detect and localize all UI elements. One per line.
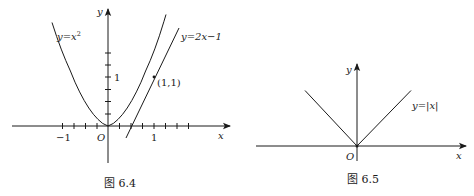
- figure-6-5: y x O y=|x| 图 6.5: [256, 64, 466, 186]
- abs-label: y=|x|: [411, 100, 438, 112]
- origin-point: [356, 145, 359, 148]
- x-tick-label-neg-one: −1: [56, 132, 71, 143]
- x-axis-label: x: [456, 150, 462, 161]
- y-axis-label: y: [345, 64, 352, 75]
- x-tick-label-one: 1: [151, 132, 157, 143]
- parabola-label: y=x2: [56, 30, 81, 42]
- tangent-label: y=2x−1: [180, 31, 222, 42]
- figure-6-4: y x O −1 1 1 y=x2 y=2x−1 (1,1) 图 6.4: [12, 6, 230, 190]
- tangent-point: [153, 76, 156, 79]
- origin-label: O: [346, 151, 354, 162]
- figures-canvas: y x O −1 1 1 y=x2 y=2x−1 (1,1) 图 6.4 y x…: [0, 0, 474, 196]
- x-axis-label: x: [218, 130, 224, 141]
- y-tick-label-one: 1: [114, 72, 120, 83]
- y-axis-label: y: [96, 6, 103, 17]
- figure-caption-6-5: 图 6.5: [347, 173, 379, 186]
- point-label: (1,1): [157, 77, 181, 88]
- figure-caption-6-4: 图 6.4: [104, 177, 136, 190]
- origin-label: O: [97, 132, 105, 143]
- abs-value-curve: [305, 91, 411, 147]
